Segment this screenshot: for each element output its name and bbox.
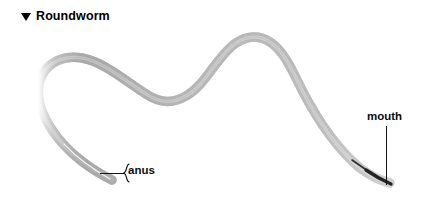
figure-caption-text: Roundworm: [36, 9, 110, 23]
anus-label: anus: [128, 164, 155, 176]
mouth-label: mouth: [367, 110, 402, 122]
roundworm-image: [0, 0, 427, 201]
figure-caption: Roundworm: [21, 9, 110, 23]
triangle-down-icon: [21, 13, 31, 21]
mouth-leader-line: [386, 126, 388, 185]
roundworm-figure: Roundworm anus mouth: [0, 0, 427, 201]
